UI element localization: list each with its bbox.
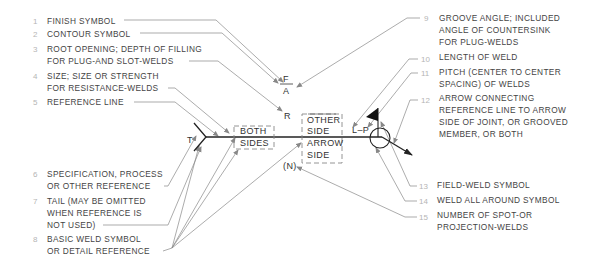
callout-label: SIDE OF JOINT, OR GROOVED [439, 117, 568, 127]
root-label: R [284, 111, 291, 121]
finish-label: F [283, 74, 289, 84]
callout-number: 14 [419, 197, 428, 206]
callout-label: ARROW CONNECTING [439, 93, 534, 103]
other-side-label: SIDE [307, 126, 330, 136]
callout-4: 4 SIZE; SIZE OR STRENGTH FOR RESISTANCE-… [33, 71, 159, 93]
callout-number: 1 [33, 17, 38, 26]
callout-number: 15 [419, 213, 428, 222]
callout-14: 14 WELD ALL AROUND SYMBOL [419, 195, 560, 206]
leader-12 [394, 100, 418, 143]
callout-label: SPECIFICATION, PROCESS [47, 169, 163, 179]
callout-label: BASIC WELD SYMBOL [47, 234, 141, 244]
callout-label: PITCH (CENTER TO CENTER [439, 67, 561, 77]
arrow-side-label: ARROW [307, 138, 344, 148]
callout-label: GROOVE ANGLE; INCLUDED [439, 13, 560, 23]
leader-8c [172, 150, 238, 248]
leader-9 [297, 18, 420, 87]
callout-11: 11 PITCH (CENTER TO CENTER SPACING) OF W… [421, 67, 561, 89]
callout-label: PROJECTION-WELDS [437, 222, 528, 232]
callout-13: 13 FIELD-WELD SYMBOL [419, 180, 530, 191]
tail-label: T [187, 135, 193, 145]
arrow-side-label: SIDE [307, 150, 330, 160]
callout-label: NOT USED) [47, 220, 96, 230]
callout-number: 13 [419, 182, 428, 191]
callout-label: FINISH SYMBOL [47, 16, 116, 26]
welding-symbol: T BOTH SIDES OTHER SIDE ARROW SIDE F A R… [187, 74, 412, 171]
callout-label: CONTOUR SYMBOL [47, 29, 131, 39]
leader-13 [381, 122, 417, 186]
both-sides-label: SIDES [240, 138, 269, 148]
callout-number: 7 [33, 197, 38, 206]
callout-10: 10 LENGTH OF WELD [421, 52, 518, 64]
callout-number: 2 [33, 30, 38, 39]
leader-5 [134, 102, 218, 136]
callout-label: ANGLE OF COUNTERSINK [439, 25, 551, 35]
field-weld-flag-icon [366, 108, 378, 121]
callout-5: 5 REFERENCE LINE [33, 97, 124, 107]
callout-8: 8 BASIC WELD SYMBOL OR DETAIL REFERENCE [33, 234, 150, 256]
callout-label: NUMBER OF SPOT-OR [437, 210, 532, 220]
callout-label: WHEN REFERENCE IS [47, 208, 142, 218]
callout-3: 3 ROOT OPENING; DEPTH OF FILLING FOR PLU… [33, 44, 202, 66]
callout-label: LENGTH OF WELD [439, 52, 518, 62]
callout-number: 9 [424, 14, 429, 23]
welding-symbol-diagram: 1 FINISH SYMBOL 2 CONTOUR SYMBOL 3 ROOT … [0, 0, 603, 259]
callout-number: 5 [33, 98, 38, 107]
callout-label: SPACING) OF WELDS [439, 79, 530, 89]
callout-1: 1 FINISH SYMBOL [33, 16, 116, 26]
callout-label: WELD ALL AROUND SYMBOL [437, 195, 560, 205]
callout-label: FOR RESISTANCE-WELDS [47, 83, 159, 93]
length-pitch-label: L–P [352, 125, 369, 135]
callout-15: 15 NUMBER OF SPOT-OR PROJECTION-WELDS [419, 210, 532, 232]
angle-label: A [283, 86, 289, 96]
callout-number: 4 [33, 72, 38, 81]
leader-10 [353, 59, 418, 127]
callout-label: OR OTHER REFERENCE [47, 181, 151, 191]
leader-8d [172, 143, 301, 248]
callout-number: 10 [421, 55, 430, 64]
callout-label: ROOT OPENING; DEPTH OF FILLING [47, 44, 202, 54]
callout-2: 2 CONTOUR SYMBOL [33, 29, 131, 39]
leader-15 [297, 167, 417, 217]
callout-label: TAIL (MAY BE OMITTED [47, 196, 146, 206]
callout-label: REFERENCE LINE [47, 97, 124, 107]
other-side-label: OTHER [307, 115, 341, 125]
callout-number: 3 [33, 45, 38, 54]
weld-all-around-icon [370, 128, 390, 148]
callout-number: 8 [33, 235, 38, 244]
callout-label: MEMBER, OR BOTH [439, 129, 523, 139]
callout-6: 6 SPECIFICATION, PROCESS OR OTHER REFERE… [33, 169, 163, 191]
callout-label: FIELD-WELD SYMBOL [437, 180, 530, 190]
callout-9: 9 GROOVE ANGLE; INCLUDED ANGLE OF COUNTE… [424, 13, 560, 47]
callout-label: OR DETAIL REFERENCE [47, 246, 150, 256]
callout-label: FOR PLUG-WELDS [439, 37, 519, 47]
leader-4 [168, 88, 229, 133]
callout-label: SIZE; SIZE OR STRENGTH [47, 71, 159, 81]
number-label: (N) [283, 161, 297, 171]
callout-number: 6 [33, 170, 38, 179]
callout-label: FOR PLUG-AND SLOT-WELDS [47, 56, 174, 66]
callout-label: REFERENCE LINE TO ARROW [439, 105, 566, 115]
callout-number: 12 [421, 96, 430, 105]
callout-number: 11 [421, 69, 430, 78]
callout-12: 12 ARROW CONNECTING REFERENCE LINE TO AR… [421, 93, 568, 139]
both-sides-label: BOTH [240, 126, 267, 136]
